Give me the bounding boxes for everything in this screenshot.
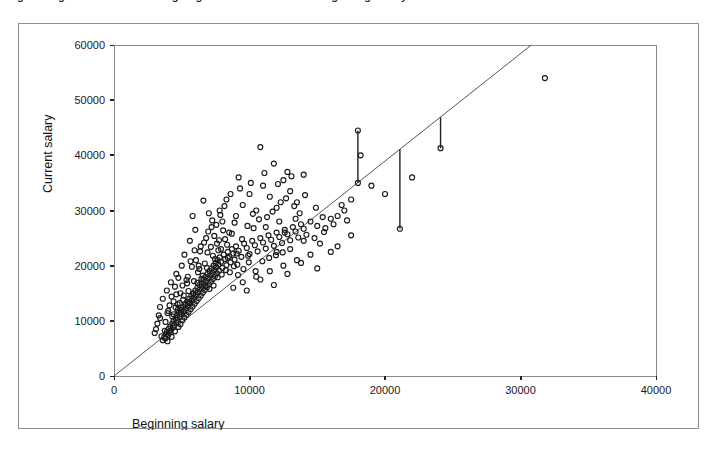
plot-box (114, 45, 656, 376)
data-point (313, 205, 318, 210)
y-tick-label: 40000 (74, 149, 105, 161)
data-point (223, 237, 228, 242)
data-point (335, 244, 340, 249)
data-point (212, 233, 217, 238)
data-point (239, 254, 244, 259)
x-tick-label: 30000 (505, 384, 536, 396)
scatter-plot: 0100002000030000400005000060000010000200… (19, 24, 700, 430)
data-point (296, 235, 301, 240)
clipped-caption-text: igure Regression Line Showing Regression… (14, 0, 407, 2)
data-point (331, 222, 336, 227)
data-point (240, 280, 245, 285)
x-tick-label: 10000 (234, 384, 265, 396)
data-point (224, 197, 229, 202)
data-point (335, 214, 340, 219)
data-point (260, 259, 265, 264)
data-point (250, 211, 255, 216)
x-axis-title: Beginning salary (132, 417, 225, 430)
data-point (238, 186, 243, 191)
data-point (219, 272, 224, 277)
data-point (258, 145, 263, 150)
data-point (288, 238, 293, 243)
data-point (193, 227, 198, 232)
data-point (339, 202, 344, 207)
data-point (196, 263, 201, 268)
data-point (301, 172, 306, 177)
data-point (312, 236, 317, 241)
data-point (190, 214, 195, 219)
data-point (201, 198, 206, 203)
data-point (163, 319, 168, 324)
figure-frame: 0100002000030000400005000060000010000200… (18, 23, 699, 429)
data-point (231, 285, 236, 290)
data-point (277, 219, 282, 224)
data-point (263, 246, 268, 251)
data-point (308, 252, 313, 257)
data-point (256, 217, 261, 222)
data-point (281, 263, 286, 268)
axes-group (114, 45, 656, 376)
data-point (227, 270, 232, 275)
data-point (240, 202, 245, 207)
x-tick-label: 0 (111, 384, 117, 396)
data-point (189, 264, 194, 269)
data-point (303, 193, 308, 198)
x-tick-label: 20000 (370, 384, 401, 396)
data-point (267, 269, 272, 274)
data-point (225, 242, 230, 247)
data-point (288, 247, 293, 252)
data-point (358, 153, 363, 158)
y-tick-label: 50000 (74, 94, 105, 106)
data-point (271, 282, 276, 287)
data-point (192, 248, 197, 253)
data-point (297, 211, 302, 216)
x-tick-label: 40000 (641, 384, 672, 396)
data-point (168, 280, 173, 285)
data-point (202, 240, 207, 245)
data-point (274, 205, 279, 210)
data-point (169, 294, 174, 299)
data-point (221, 228, 226, 233)
data-point (349, 197, 354, 202)
y-tick-label: 10000 (74, 315, 105, 327)
data-point (289, 174, 294, 179)
data-point (349, 233, 354, 238)
data-point (317, 241, 322, 246)
data-point (298, 260, 303, 265)
data-point (263, 225, 268, 230)
data-point (160, 296, 165, 301)
data-point (320, 215, 325, 220)
data-point (240, 237, 245, 242)
data-point (328, 216, 333, 221)
data-point (315, 266, 320, 271)
data-point (315, 223, 320, 228)
data-point (164, 288, 169, 293)
data-point (228, 191, 233, 196)
data-point (285, 271, 290, 276)
data-point (232, 257, 237, 262)
data-point (155, 321, 160, 326)
data-point (410, 175, 415, 180)
chart-canvas: 0100002000030000400005000060000010000200… (19, 24, 700, 430)
clipped-top-caption: igure Regression Line Showing Regression… (0, 0, 719, 14)
y-tick-label: 0 (99, 370, 105, 382)
data-point (281, 178, 286, 183)
data-point (206, 229, 211, 234)
data-point (188, 259, 193, 264)
data-point (301, 226, 306, 231)
data-point (261, 183, 266, 188)
data-point (542, 76, 547, 81)
data-point (288, 189, 293, 194)
data-point (285, 169, 290, 174)
data-point (278, 200, 283, 205)
data-point (262, 170, 267, 175)
data-point (248, 180, 253, 185)
data-point (342, 208, 347, 213)
data-point (269, 237, 274, 242)
data-point (244, 288, 249, 293)
data-point (233, 214, 238, 219)
data-point (253, 269, 258, 274)
data-point (206, 211, 211, 216)
y-tick-label: 20000 (74, 260, 105, 272)
data-point (271, 161, 276, 166)
